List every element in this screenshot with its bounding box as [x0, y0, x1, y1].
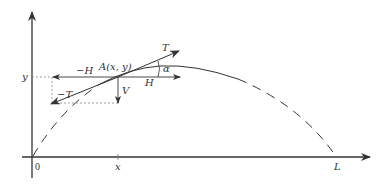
label-neg-h: −H: [76, 65, 93, 76]
label-alpha: α: [163, 63, 170, 74]
label-origin: 0: [35, 161, 40, 172]
label-l: L: [333, 161, 341, 172]
alpha-arc: [158, 61, 160, 77]
curve-right-dashed: [238, 79, 335, 155]
label-x: x: [115, 161, 121, 172]
catenary-force-diagram: A(x, y) T α H −H −T V y 0 x L: [0, 0, 390, 184]
label-v: V: [122, 85, 131, 96]
label-h: H: [144, 77, 154, 88]
label-y: y: [21, 71, 28, 82]
label-t: T: [162, 42, 170, 53]
label-neg-t: −T: [57, 89, 73, 100]
label-point-a: A(x, y): [98, 61, 132, 72]
